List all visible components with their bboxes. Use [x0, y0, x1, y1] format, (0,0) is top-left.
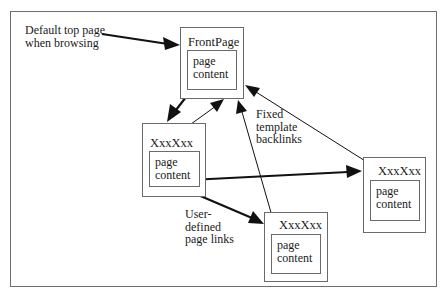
bottom-page-box: XxxXxx page content [264, 212, 328, 282]
bottom-page-content-box: page content [271, 234, 321, 274]
left-page-content-text: page content [155, 156, 190, 182]
fixed-backlinks-label: Fixed template backlinks [256, 108, 302, 146]
right-page-box: XxxXxx page content [363, 157, 426, 233]
bottom-page-content-text: page content [277, 239, 312, 265]
left-backlink-arrow [191, 99, 224, 124]
left-to-right-arrow [190, 165, 362, 180]
left-page-title: XxxXxx [150, 137, 193, 150]
entry-arrow [102, 34, 180, 50]
front-page-content-box: page content [187, 50, 237, 90]
right-page-title: XxxXxx [378, 165, 421, 178]
front-page-box: FrontPage page content [180, 27, 244, 99]
left-page-box: XxxXxx page content [142, 123, 206, 197]
left-page-content-box: page content [149, 151, 200, 187]
default-top-page-label: Default top page when browsing [25, 24, 105, 49]
right-page-content-text: page content [376, 185, 411, 211]
user-links-label: User- defined page links [185, 208, 234, 246]
front-page-title: FrontPage [188, 36, 239, 49]
right-page-content-box: page content [370, 180, 420, 221]
front-page-content-text: page content [193, 55, 228, 81]
bottom-page-title: XxxXxx [279, 219, 322, 232]
